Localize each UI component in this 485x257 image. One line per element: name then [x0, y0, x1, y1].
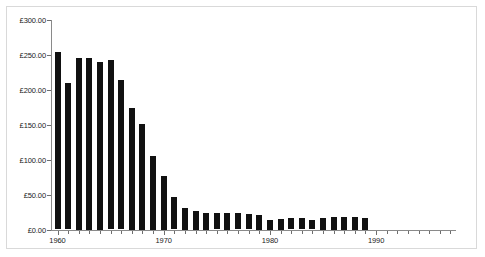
x-axis-minor-tick: [323, 231, 324, 234]
y-axis-label: £250.00: [2, 50, 46, 59]
bar: [267, 220, 273, 230]
x-axis-minor-tick: [281, 231, 282, 234]
bar: [203, 213, 209, 230]
y-axis-line: [51, 20, 52, 231]
x-axis-minor-tick: [196, 231, 197, 234]
x-axis-label: 1990: [356, 236, 396, 245]
y-axis-tick: [47, 230, 51, 231]
bar: [235, 213, 241, 229]
x-axis-minor-tick: [419, 231, 420, 234]
x-axis-minor-tick: [227, 231, 228, 234]
x-axis-major-tick: [164, 231, 165, 235]
x-axis-minor-tick: [174, 231, 175, 234]
y-axis-tick: [47, 20, 51, 21]
y-axis-label: £300.00: [2, 15, 46, 24]
x-axis-major-tick: [376, 231, 377, 235]
x-axis-label: 1980: [250, 236, 290, 245]
bar: [224, 213, 230, 230]
x-axis-minor-tick: [68, 231, 69, 234]
bar: [309, 220, 315, 229]
bar: [331, 217, 337, 230]
bar: [97, 62, 103, 230]
x-axis-minor-tick: [259, 231, 260, 234]
x-axis-minor-tick: [217, 231, 218, 234]
y-axis-tick: [47, 90, 51, 91]
bar: [352, 217, 358, 230]
bar: [139, 124, 145, 230]
y-axis-tick: [47, 195, 51, 196]
x-axis-minor-tick: [132, 231, 133, 234]
bar: [86, 58, 92, 230]
x-axis-minor-tick: [344, 231, 345, 234]
x-axis-minor-tick: [397, 231, 398, 234]
x-axis-minor-tick: [429, 231, 430, 234]
x-axis-minor-tick: [249, 231, 250, 234]
bar: [299, 218, 305, 229]
x-axis-minor-tick: [121, 231, 122, 234]
x-axis-minor-tick: [334, 231, 335, 234]
bar: [362, 218, 368, 230]
x-axis-minor-tick: [387, 231, 388, 234]
x-axis-label: 1960: [38, 236, 78, 245]
bar: [256, 215, 262, 230]
x-axis-minor-tick: [89, 231, 90, 234]
x-axis-minor-tick: [312, 231, 313, 234]
x-axis-minor-tick: [238, 231, 239, 234]
x-axis-minor-tick: [206, 231, 207, 234]
y-axis-label: £50.00: [2, 190, 46, 199]
bar: [171, 197, 177, 229]
bar: [161, 176, 167, 230]
y-axis-tick: [47, 125, 51, 126]
y-axis-label: £150.00: [2, 120, 46, 129]
x-axis-minor-tick: [355, 231, 356, 234]
x-axis-minor-tick: [142, 231, 143, 234]
x-axis-minor-tick: [185, 231, 186, 234]
y-axis-label: £0.00: [2, 225, 46, 234]
bar: [65, 83, 71, 229]
bar: [55, 52, 61, 229]
bar: [278, 219, 284, 230]
y-axis-label: £200.00: [2, 85, 46, 94]
x-axis-major-tick: [58, 231, 59, 235]
y-axis-tick: [47, 55, 51, 56]
x-axis-minor-tick: [450, 231, 451, 234]
bar: [182, 208, 188, 230]
x-axis-minor-tick: [100, 231, 101, 234]
x-axis-minor-tick: [79, 231, 80, 234]
x-axis-minor-tick: [111, 231, 112, 234]
bar: [341, 217, 347, 230]
x-axis-minor-tick: [440, 231, 441, 234]
bar-chart: £0.00£50.00£100.00£150.00£200.00£250.00£…: [0, 0, 485, 257]
x-axis-major-tick: [270, 231, 271, 235]
bar: [246, 214, 252, 229]
x-axis-minor-tick: [302, 231, 303, 234]
x-axis-minor-tick: [408, 231, 409, 234]
bar: [150, 156, 156, 230]
x-axis-minor-tick: [365, 231, 366, 234]
bar: [108, 60, 114, 229]
y-axis-label: £100.00: [2, 155, 46, 164]
y-axis-tick: [47, 160, 51, 161]
bar: [129, 108, 135, 230]
bar: [214, 213, 220, 229]
x-axis-label: 1970: [144, 236, 184, 245]
x-axis-minor-tick: [153, 231, 154, 234]
bar: [193, 211, 199, 230]
x-axis-minor-tick: [291, 231, 292, 234]
bar: [320, 218, 326, 230]
bar: [118, 80, 124, 229]
bar: [76, 58, 82, 230]
bar: [288, 218, 294, 229]
